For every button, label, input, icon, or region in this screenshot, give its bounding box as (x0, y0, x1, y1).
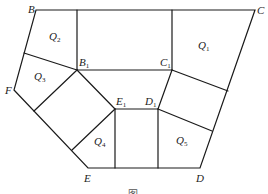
edge-b1-left (24, 53, 77, 70)
region-label-q5: Q5 (176, 134, 188, 148)
vertex-label-b1: B1 (79, 56, 90, 70)
vertex-label-b: B (28, 3, 35, 15)
vertex-label-d: D (195, 172, 204, 184)
region-label-q3: Q3 (34, 70, 46, 84)
edge-e1-b1 (77, 70, 115, 109)
edge-d1-right (158, 109, 212, 131)
figure-caption: 图 (128, 189, 138, 194)
region-label-q1: Q1 (198, 39, 210, 53)
vertex-label-c1: C1 (160, 56, 171, 70)
vertex-label-f: F (4, 84, 12, 96)
region-label-q4: Q4 (94, 135, 106, 149)
vertex-label-c: C (257, 4, 265, 16)
vertex-label-e1: E1 (115, 95, 127, 109)
edge-c1-right (172, 70, 228, 91)
polygon-diagram: B C F E D B1 C1 D1 E1 Q1 Q2 Q3 Q4 Q5 图 (0, 0, 268, 194)
vertex-label-e: E (83, 172, 91, 184)
region-label-q2: Q2 (49, 30, 61, 44)
edge-c1-d1 (158, 70, 172, 109)
vertex-label-d1: D1 (144, 95, 157, 109)
